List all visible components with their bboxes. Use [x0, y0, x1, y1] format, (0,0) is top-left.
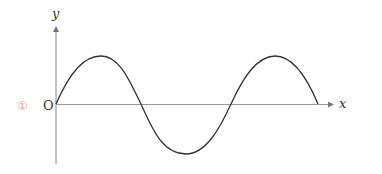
figure-marker: ① — [17, 99, 28, 113]
x-axis-label: x — [339, 96, 347, 111]
origin-label: O — [43, 98, 54, 113]
sine-wave-diagram: y x O ① — [0, 0, 382, 174]
y-axis-label: y — [51, 6, 60, 21]
